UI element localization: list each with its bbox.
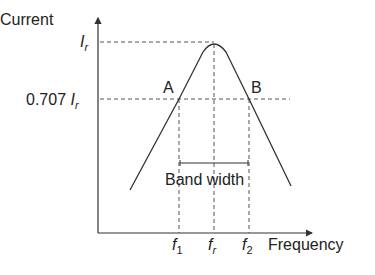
fr-tick-label: fr — [208, 236, 217, 256]
point-b-label: B — [251, 79, 262, 96]
resonance-diagram: Current Ir 0.707 Ir A B Band width f1 fr… — [0, 0, 375, 275]
resonance-curve — [130, 44, 291, 190]
y-axis-label: Current — [0, 11, 54, 28]
point-a-label: A — [163, 79, 174, 96]
x-axis-label: Frequency — [268, 236, 344, 253]
half-power-tick-label: 0.707 Ir — [26, 91, 80, 111]
f1-tick-label: f1 — [172, 236, 183, 256]
ir-tick-label: Ir — [80, 33, 89, 53]
bandwidth-label: Band width — [165, 171, 244, 188]
f2-tick-label: f2 — [242, 236, 253, 256]
